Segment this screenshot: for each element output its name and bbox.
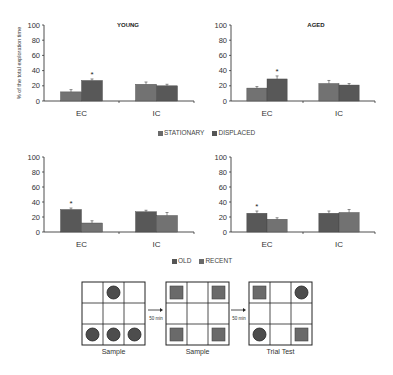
- chart-title: AGED: [307, 22, 325, 28]
- legend-item-displaced: DISPLACED: [212, 129, 255, 136]
- y-tick-label: 100: [214, 153, 227, 162]
- significance-marker: *: [90, 70, 93, 79]
- legend-bottom: OLD RECENT: [172, 257, 232, 264]
- x-category-label: IC: [335, 240, 343, 249]
- object-circle: [107, 286, 120, 299]
- bar-old: [136, 212, 157, 232]
- object-circle: [128, 328, 141, 341]
- panel-caption: Trial Test: [266, 348, 294, 355]
- significance-marker: *: [69, 199, 72, 208]
- bar-recent: [82, 223, 103, 232]
- legend-item-old: OLD: [172, 257, 191, 264]
- object-square: [253, 286, 266, 299]
- y-tick-label: 80: [32, 168, 40, 177]
- bar-displaced: [339, 85, 359, 101]
- bar-stationary: [247, 88, 267, 101]
- bar-displaced: [267, 79, 287, 101]
- bar-stationary: [136, 84, 157, 101]
- object-circle: [86, 328, 99, 341]
- y-tick-label: 60: [219, 183, 227, 192]
- bar-recent: [157, 216, 178, 233]
- y-tick-label: 60: [219, 51, 227, 60]
- task-diagram: SampleSampleTrial Test50 min50 min: [0, 275, 393, 375]
- bar-old: [319, 213, 339, 232]
- interval-label: 50 min: [232, 316, 246, 321]
- chart-title: YOUNG: [117, 22, 139, 28]
- significance-marker: *: [255, 202, 258, 211]
- object-square: [170, 328, 183, 341]
- legend-item-stationary: STATIONARY: [158, 129, 204, 136]
- y-tick-label: 0: [223, 97, 227, 106]
- diagram-panel-2: Sample: [166, 282, 229, 356]
- y-tick-label: 80: [32, 36, 40, 45]
- charts-area: 020406080100EC*ICYOUNG% of the total exp…: [0, 0, 393, 280]
- x-category-label: EC: [76, 240, 87, 249]
- y-tick-label: 60: [32, 183, 40, 192]
- significance-marker: *: [276, 67, 279, 76]
- object-square: [212, 328, 225, 341]
- y-tick-label: 40: [219, 198, 227, 207]
- x-category-label: IC: [153, 240, 161, 249]
- bar-chart-2: 020406080100EC*ICAGED: [214, 21, 375, 119]
- diagram-panel-3: Trial Test: [249, 282, 312, 355]
- x-category-label: EC: [76, 109, 87, 118]
- y-tick-label: 20: [219, 213, 227, 222]
- y-tick-label: 40: [32, 66, 40, 75]
- bar-old: [61, 210, 82, 233]
- y-tick-label: 40: [219, 66, 227, 75]
- y-axis-label: % of the total exploration time: [16, 27, 22, 99]
- y-tick-label: 20: [32, 81, 40, 90]
- panel-caption: Sample: [102, 348, 126, 356]
- interval-label: 50 min: [149, 316, 163, 321]
- legend-item-recent: RECENT: [199, 257, 232, 264]
- y-tick-label: 100: [27, 21, 40, 30]
- y-tick-label: 0: [36, 228, 40, 237]
- time-arrow: 50 min: [148, 308, 163, 321]
- bar-displaced: [157, 86, 178, 101]
- y-tick-label: 60: [32, 51, 40, 60]
- bar-chart-4: 020406080100EC*IC: [214, 153, 375, 250]
- object-square: [170, 286, 183, 299]
- bar-recent: [267, 219, 287, 232]
- x-category-label: EC: [261, 240, 272, 249]
- y-tick-label: 0: [36, 97, 40, 106]
- y-tick-label: 0: [223, 228, 227, 237]
- y-tick-label: 40: [32, 198, 40, 207]
- x-category-label: EC: [261, 109, 272, 118]
- bar-chart-3: 020406080100EC*IC: [27, 153, 194, 250]
- y-tick-label: 100: [214, 21, 227, 30]
- diagram-panel-1: Sample: [82, 282, 145, 356]
- y-tick-label: 20: [32, 213, 40, 222]
- x-category-label: IC: [335, 109, 343, 118]
- legend-top: STATIONARY DISPLACED: [158, 129, 255, 136]
- object-circle: [253, 328, 266, 341]
- y-tick-label: 80: [219, 168, 227, 177]
- time-arrow: 50 min: [231, 308, 246, 321]
- object-square: [212, 286, 225, 299]
- bar-stationary: [61, 92, 82, 101]
- object-circle: [107, 328, 120, 341]
- object-circle: [295, 286, 308, 299]
- panel-caption: Sample: [186, 348, 210, 356]
- bar-stationary: [319, 84, 339, 101]
- bar-chart-1: 020406080100EC*ICYOUNG% of the total exp…: [16, 21, 194, 119]
- bar-displaced: [82, 80, 103, 101]
- y-tick-label: 80: [219, 36, 227, 45]
- bar-old: [247, 213, 267, 232]
- y-tick-label: 100: [27, 153, 40, 162]
- y-tick-label: 20: [219, 81, 227, 90]
- x-category-label: IC: [153, 109, 161, 118]
- bar-recent: [339, 213, 359, 233]
- object-square: [295, 328, 308, 341]
